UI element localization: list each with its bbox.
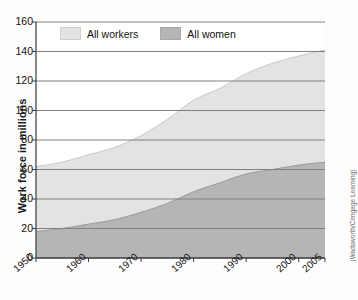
chart-legend: All workers All women: [60, 27, 236, 40]
legend-swatch-all-women: [160, 27, 181, 40]
legend-label-all-women: All women: [187, 28, 235, 40]
legend-swatch-all-workers: [60, 27, 81, 40]
legend-item-all-workers: All workers: [60, 27, 138, 40]
plot-area: [0, 0, 358, 300]
source-credit: (Wadsworth/Cengage Learning): [349, 156, 356, 276]
legend-label-all-workers: All workers: [87, 28, 138, 40]
chart-figure: Work force in millions 02040608010012014…: [0, 0, 358, 300]
legend-item-all-women: All women: [160, 27, 235, 40]
